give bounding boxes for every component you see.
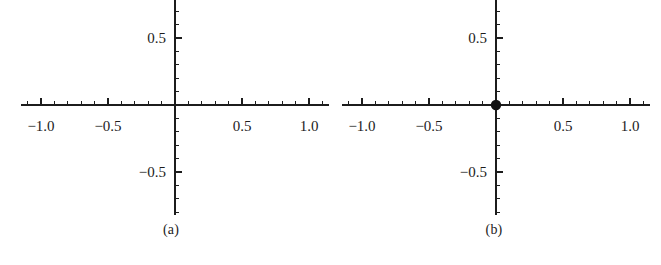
- x-tick-label: −0.5: [94, 118, 121, 134]
- data-point: [491, 100, 501, 110]
- y-tick-label: −0.5: [139, 164, 166, 180]
- x-tick-label: 0.5: [554, 118, 573, 134]
- scatter-plot-a: −1.0−0.50.51.0−1.0−0.50.51.0: [0, 0, 330, 215]
- x-tick-label: 1.0: [300, 118, 319, 134]
- x-tick-label: −1.0: [348, 118, 375, 134]
- panel-a: −1.0−0.50.51.0−1.0−0.50.51.0 (a): [0, 0, 330, 265]
- x-tick-label: −1.0: [27, 118, 54, 134]
- x-tick-label: 1.0: [621, 118, 640, 134]
- x-tick-label: −0.5: [415, 118, 442, 134]
- y-tick-label: 0.5: [147, 30, 166, 46]
- y-tick-label: 0.5: [468, 30, 487, 46]
- scatter-plot-b: −1.0−0.50.51.0−1.0−0.50.51.0: [331, 0, 661, 215]
- y-tick-label: −0.5: [460, 164, 487, 180]
- x-tick-label: 0.5: [233, 118, 252, 134]
- figure-scatter-pair: −1.0−0.50.51.0−1.0−0.50.51.0 (a) −1.0−0.…: [0, 0, 661, 265]
- panel-b-caption: (b): [329, 222, 659, 238]
- panel-b: −1.0−0.50.51.0−1.0−0.50.51.0 (b): [331, 0, 661, 265]
- panel-a-caption: (a): [6, 222, 336, 238]
